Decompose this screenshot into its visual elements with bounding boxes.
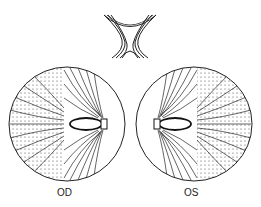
optic-chiasm [104,15,156,58]
label-os: OS [184,187,198,198]
eye-os-fiber-map [109,62,253,186]
eye-od-fiber-map [8,62,152,186]
retinal-diagram-graphic [0,0,261,207]
diagram: OD OS [0,0,261,207]
label-od: OD [57,187,72,198]
optic-disc-od [70,118,102,130]
optic-disc-os [159,118,191,130]
